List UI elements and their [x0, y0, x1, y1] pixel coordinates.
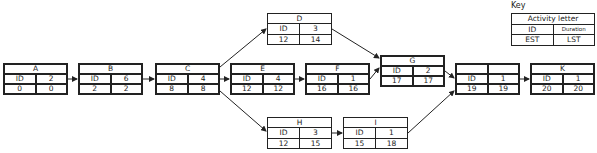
- activity-letter: C: [157, 65, 218, 73]
- arrow-d-g: [332, 29, 379, 58]
- activity-duration: 2: [412, 67, 444, 75]
- activity-lst: 2: [110, 85, 142, 93]
- activity-duration: 3: [299, 128, 331, 137]
- activity-est: 12: [268, 35, 299, 44]
- activity-id: ID: [344, 128, 375, 137]
- activity-id: ID: [80, 75, 110, 83]
- activity-letter: [457, 65, 487, 73]
- activity-letter: H: [268, 118, 331, 127]
- key-id: ID: [512, 25, 553, 35]
- activity-node-a: A ID2 00: [3, 63, 68, 95]
- activity-duration: 2: [35, 75, 67, 83]
- arrow-c-h: [220, 91, 266, 131]
- activity-id: ID: [232, 75, 262, 83]
- activity-node-b: B ID6 22: [78, 63, 143, 95]
- activity-id: ID: [268, 24, 299, 33]
- activity-est: 12: [268, 139, 299, 148]
- activity-letter: I: [344, 118, 407, 127]
- activity-duration: 1: [562, 75, 594, 83]
- activity-duration: 4: [262, 75, 294, 83]
- activity-id: ID: [157, 75, 187, 83]
- activity-letter-blank: [487, 65, 519, 73]
- activity-id: ID: [457, 75, 487, 83]
- activity-lst: 0: [35, 85, 67, 93]
- key-lst: LST: [553, 35, 595, 45]
- activity-est: 17: [382, 77, 412, 85]
- key-activity-letter: Activity letter: [512, 14, 594, 24]
- activity-letter: B: [80, 65, 141, 73]
- activity-id: ID: [307, 75, 337, 83]
- activity-lst: 18: [375, 139, 407, 148]
- activity-node-i: I ID1 1518: [343, 117, 408, 149]
- activity-node-g: G ID2 1717: [380, 55, 445, 87]
- activity-node-h: H ID3 1215: [267, 117, 332, 149]
- activity-est: 16: [307, 85, 337, 93]
- activity-lst: 19: [487, 85, 519, 93]
- activity-lst: 14: [299, 35, 331, 44]
- activity-lst: 16: [337, 85, 369, 93]
- activity-lst: 20: [562, 85, 594, 93]
- activity-letter: E: [232, 65, 293, 73]
- activity-letter: A: [5, 65, 66, 73]
- activity-node-j: ID1 1919: [455, 63, 520, 95]
- activity-duration: 1: [375, 128, 407, 137]
- activity-est: 8: [157, 85, 187, 93]
- activity-id: ID: [268, 128, 299, 137]
- activity-letter: F: [307, 65, 368, 73]
- activity-letter: K: [532, 65, 593, 73]
- activity-est: 0: [5, 85, 35, 93]
- key-est: EST: [512, 35, 553, 45]
- arrow-f-g: [370, 68, 379, 79]
- activity-node-c: C ID4 88: [155, 63, 220, 95]
- activity-duration: 1: [337, 75, 369, 83]
- activity-est: 2: [80, 85, 110, 93]
- activity-lst: 15: [299, 139, 331, 148]
- activity-est: 19: [457, 85, 487, 93]
- activity-lst: 17: [412, 77, 444, 85]
- activity-lst: 8: [187, 85, 219, 93]
- activity-est: 12: [232, 85, 262, 93]
- arrow-i-j: [408, 91, 454, 133]
- activity-est: 20: [532, 85, 562, 93]
- activity-letter: G: [382, 57, 443, 65]
- activity-duration: 6: [110, 75, 142, 83]
- activity-node-f: F ID1 1616: [305, 63, 370, 95]
- activity-node-d: D ID3 1214: [267, 13, 332, 45]
- activity-est: 15: [344, 139, 375, 148]
- activity-duration: 3: [299, 24, 331, 33]
- activity-node-k: K ID1 2020: [530, 63, 595, 95]
- arrow-c-d: [220, 29, 266, 67]
- activity-id: ID: [5, 75, 35, 83]
- activity-letter: D: [268, 14, 331, 23]
- activity-id: ID: [382, 67, 412, 75]
- activity-node-e: E ID4 1212: [230, 63, 295, 95]
- key-legend: Activity letter IDDuration ESTLST: [511, 13, 595, 46]
- arrow-g-j: [445, 71, 454, 78]
- activity-lst: 12: [262, 85, 294, 93]
- key-label: Key: [511, 1, 526, 10]
- activity-duration: 1: [487, 75, 519, 83]
- key-duration: Duration: [553, 25, 595, 35]
- activity-duration: 4: [187, 75, 219, 83]
- activity-id: ID: [532, 75, 562, 83]
